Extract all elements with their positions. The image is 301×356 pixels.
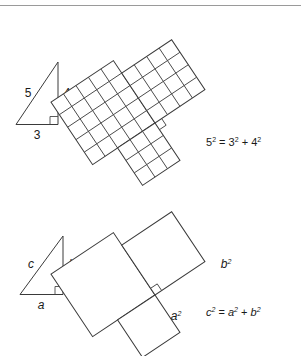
algebraic-hypotenuse-label: c: [28, 257, 34, 271]
algebraic-base-label: a: [38, 298, 45, 312]
numeric-hypotenuse-label: 5: [25, 86, 32, 100]
pythagorean-theorem-figure: 5 4 3: [0, 0, 301, 356]
numeric-base-label: 3: [34, 128, 41, 142]
